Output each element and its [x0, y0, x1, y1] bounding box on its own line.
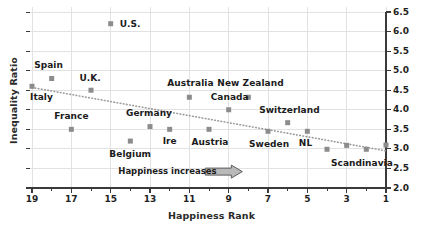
data-point-marker: [30, 84, 35, 89]
x-tick-label: 5: [295, 194, 319, 204]
y-tick-label: 2.0: [393, 183, 409, 193]
point-label: U.K.: [80, 73, 101, 83]
data-point-marker: [226, 107, 231, 112]
data-point-marker: [325, 147, 330, 152]
x-tick-label: 3: [335, 194, 359, 204]
data-point-marker: [49, 76, 54, 81]
point-label: Canada: [211, 92, 249, 102]
point-label: France: [54, 111, 88, 121]
scatter-chart: Inequality Ratio Happiness Rank 19171513…: [0, 0, 423, 233]
data-point-marker: [364, 147, 369, 152]
x-tick-label: 17: [59, 194, 83, 204]
y-tick-label: 5.5: [393, 46, 409, 56]
y-tick-label: 3.0: [393, 143, 409, 153]
y-tick-label: 2.5: [393, 163, 409, 173]
annotation-text: Happiness increases: [118, 166, 216, 176]
x-tick-label: 9: [217, 194, 241, 204]
data-point-marker: [207, 127, 212, 132]
data-point-marker: [266, 129, 271, 134]
point-label: Ire: [163, 136, 177, 146]
x-tick-label: 15: [99, 194, 123, 204]
x-tick-label: 13: [138, 194, 162, 204]
data-point-marker: [89, 88, 94, 93]
x-tick-label: 11: [177, 194, 201, 204]
point-label: Switzerland: [259, 105, 320, 115]
data-point-marker: [167, 127, 172, 132]
point-label: NL: [299, 138, 312, 148]
y-tick-label: 4.5: [393, 85, 409, 95]
data-point-marker: [384, 142, 389, 147]
data-point-marker: [128, 139, 133, 144]
point-label: Australia: [167, 78, 213, 88]
data-point-marker: [148, 124, 153, 129]
point-label: Sweden: [249, 139, 289, 149]
point-label: Spain: [34, 60, 63, 70]
data-point-marker: [69, 127, 74, 132]
point-label: Scandinavia: [331, 158, 393, 168]
point-label: Italy: [30, 92, 53, 102]
x-tick-label: 1: [374, 194, 398, 204]
y-tick-label: 5.0: [393, 65, 409, 75]
data-point-marker: [285, 120, 290, 125]
point-label: New Zealand: [217, 78, 283, 88]
y-tick-label: 4.0: [393, 104, 409, 114]
point-label: Belgium: [109, 149, 151, 159]
point-label: Austria: [192, 137, 229, 147]
y-tick-label: 6.5: [393, 7, 409, 17]
data-point-marker: [305, 129, 310, 134]
x-axis-label: Happiness Rank: [0, 210, 423, 221]
data-point-marker: [344, 143, 349, 148]
point-label: U.S.: [120, 19, 141, 29]
y-tick-label: 3.5: [393, 124, 409, 134]
x-tick-label: 19: [20, 194, 44, 204]
point-label: Germany: [126, 108, 172, 118]
data-point-marker: [187, 95, 192, 100]
y-tick-label: 6.0: [393, 26, 409, 36]
data-point-marker: [108, 21, 113, 26]
x-tick-label: 7: [256, 194, 280, 204]
